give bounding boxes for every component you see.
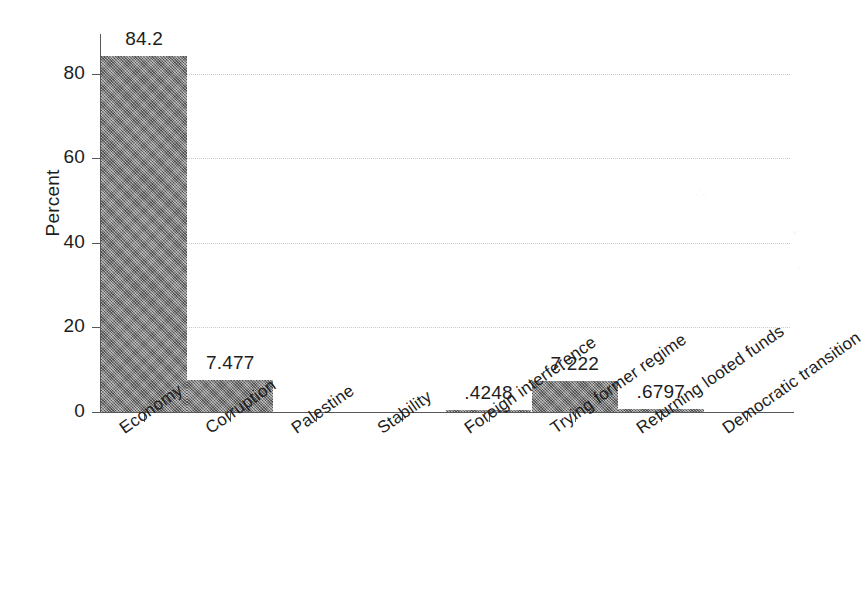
y-axis-tick [92, 158, 101, 159]
bar-value-label: 84.2 [101, 28, 187, 50]
y-axis-tick-label: 0 [25, 400, 85, 422]
y-axis-tick-label: 60 [25, 146, 85, 168]
y-axis-tick [92, 327, 101, 328]
y-axis-tick [92, 243, 101, 244]
gridline [101, 327, 790, 328]
y-axis-tick [92, 412, 101, 413]
bar-value-label: 7.477 [187, 352, 273, 374]
y-axis-tick-label: 40 [25, 231, 85, 253]
y-axis-line [100, 34, 101, 413]
y-axis-tick-label: 80 [25, 62, 85, 84]
x-axis-line [100, 412, 794, 413]
y-axis-tick-label: 20 [25, 315, 85, 337]
scan-artifact: · [797, 262, 801, 274]
y-axis-tick [92, 74, 101, 75]
gridline [101, 158, 790, 159]
gridline [101, 74, 790, 75]
scan-artifact: ˚ [793, 230, 797, 242]
gridline [101, 243, 790, 244]
bar[interactable] [101, 56, 187, 412]
plot-area: 84.27.477.42487.222.6797 [101, 40, 790, 412]
